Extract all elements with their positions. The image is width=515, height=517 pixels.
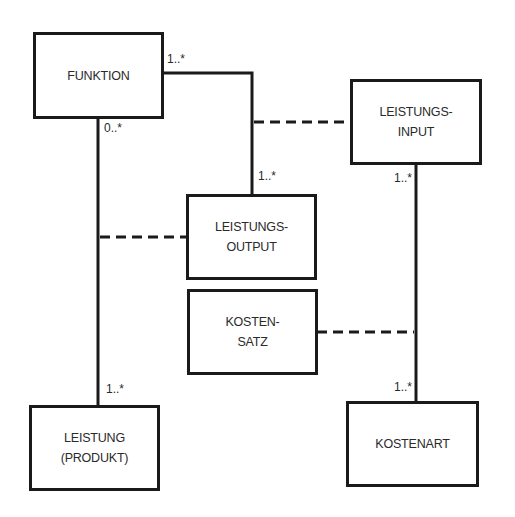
- class-kostenart: KOSTENART: [346, 401, 479, 487]
- class-label: (PRODUKT): [61, 448, 129, 468]
- multiplicity-leistung-top: 1..*: [106, 383, 124, 395]
- diagram-canvas: FUNKTION LEISTUNGS- INPUT LEISTUNGS- OUT…: [0, 0, 515, 517]
- class-label: SATZ: [225, 332, 279, 352]
- class-funktion: FUNKTION: [33, 32, 164, 119]
- class-label: LEISTUNGS-: [215, 217, 288, 237]
- class-label: FUNKTION: [67, 66, 129, 86]
- class-label: OUTPUT: [215, 237, 288, 257]
- class-leistungs-output: LEISTUNGS- OUTPUT: [186, 194, 317, 280]
- class-label: INPUT: [379, 122, 452, 142]
- class-leistungs-input: LEISTUNGS- INPUT: [350, 79, 482, 165]
- multiplicity-funktion-right: 1..*: [167, 53, 185, 65]
- class-label: KOSTENART: [375, 434, 449, 454]
- class-label: LEISTUNG: [61, 428, 129, 448]
- multiplicity-kostenart-top: 1..*: [394, 381, 412, 393]
- association-funktion-output: [163, 73, 252, 194]
- multiplicity-funktion-bottom: 0..*: [104, 122, 122, 134]
- multiplicity-input-bottom: 1..*: [394, 172, 412, 184]
- multiplicity-output-top: 1..*: [258, 170, 276, 182]
- class-kosten-satz: KOSTEN- SATZ: [187, 289, 318, 375]
- class-label: KOSTEN-: [225, 312, 279, 332]
- class-label: LEISTUNGS-: [379, 102, 452, 122]
- class-leistung-produkt: LEISTUNG (PRODUKT): [29, 405, 160, 491]
